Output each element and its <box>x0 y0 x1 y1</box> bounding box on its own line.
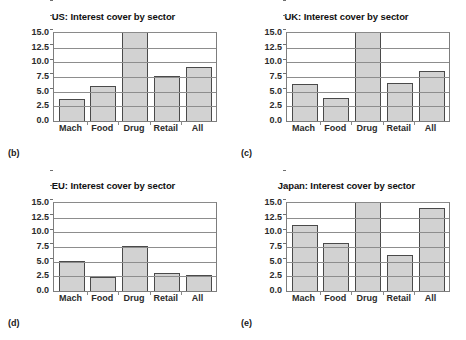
y-axis-tick-label: 5.0 <box>269 86 282 96</box>
y-axis-tick-mark <box>50 170 53 171</box>
bar <box>154 76 180 121</box>
y-axis-tick-label: 12.5 <box>31 42 49 52</box>
x-axis-tick-label: All <box>416 293 445 303</box>
y-axis-tick-mark <box>50 243 53 244</box>
y-axis-tick-mark <box>283 199 286 200</box>
y-axis-tick-mark <box>50 214 53 215</box>
y-axis-tick-mark <box>283 214 286 215</box>
panel-eu: EU: Interest cover by sector 0.02.55.07.… <box>0 170 233 340</box>
y-axis-tick-mark <box>50 258 53 259</box>
y-axis-tick-mark <box>50 185 53 186</box>
y-axis-labels: 0.02.55.07.510.012.515.0 <box>14 202 49 290</box>
gridline <box>287 106 449 107</box>
gridline <box>287 262 449 263</box>
x-axis-labels: MachFoodDrugRetailAll <box>53 123 215 133</box>
bar <box>186 67 212 121</box>
y-axis-tick-mark <box>50 15 53 16</box>
chart-title: US: Interest cover by sector <box>0 11 227 22</box>
y-axis-tick-mark <box>283 243 286 244</box>
x-axis-tick-label: All <box>183 123 212 133</box>
y-axis-tick-mark <box>283 44 286 45</box>
x-axis-labels: MachFoodDrugRetailAll <box>286 123 448 133</box>
y-axis-tick-label: 7.5 <box>269 71 282 81</box>
y-axis-tick-label: 7.5 <box>269 241 282 251</box>
y-axis-tick-mark <box>283 0 286 1</box>
y-axis-tick-mark <box>283 59 286 60</box>
y-axis-tick-mark <box>50 229 53 230</box>
bar <box>90 277 116 291</box>
x-axis-tick-label: Mach <box>56 123 85 133</box>
gridline <box>54 262 216 263</box>
x-axis-tick-label: Retail <box>384 123 413 133</box>
panel-caption: (e) <box>241 318 252 328</box>
y-axis-tick-mark <box>50 88 53 89</box>
panel-caption: (d) <box>8 318 20 328</box>
y-axis-labels: 0.02.55.07.510.012.515.0 <box>247 202 282 290</box>
bar <box>122 246 148 291</box>
x-axis-labels: MachFoodDrugRetailAll <box>53 293 215 303</box>
bar <box>292 225 318 291</box>
x-axis-tick-label: Drug <box>353 293 382 303</box>
plot-area <box>53 202 217 292</box>
gridline <box>287 276 449 277</box>
x-axis-tick-label: Food <box>321 293 350 303</box>
gridline <box>54 218 216 219</box>
y-axis-tick-label: 15.0 <box>31 197 49 207</box>
x-axis-tick-label: Mach <box>289 123 318 133</box>
panel-uk: UK: Interest cover by sector 0.02.55.07.… <box>233 0 466 170</box>
y-axis-tick-label: 7.5 <box>36 241 49 251</box>
x-axis-tick-label: Retail <box>384 293 413 303</box>
y-axis-tick-label: 12.5 <box>264 42 282 52</box>
gridline <box>287 77 449 78</box>
x-axis-tick-label: Drug <box>353 123 382 133</box>
gridline <box>54 77 216 78</box>
bar <box>323 243 349 291</box>
gridline <box>54 92 216 93</box>
y-axis-tick-label: 0.0 <box>36 115 49 125</box>
chart-title: UK: Interest cover by sector <box>233 11 460 22</box>
gridline <box>54 276 216 277</box>
gridline <box>287 62 449 63</box>
y-axis-tick-mark <box>50 29 53 30</box>
gridline <box>54 232 216 233</box>
panel-us: US: Interest cover by sector 0.02.55.07.… <box>0 0 233 170</box>
y-axis-tick-mark <box>283 185 286 186</box>
y-axis-tick-label: 2.5 <box>36 100 49 110</box>
x-axis-tick-label: Retail <box>151 293 180 303</box>
gridline <box>54 62 216 63</box>
y-axis-tick-mark <box>50 199 53 200</box>
y-axis-tick-mark <box>283 73 286 74</box>
y-axis-tick-mark <box>283 170 286 171</box>
y-axis-tick-mark <box>283 229 286 230</box>
y-axis-tick-label: 7.5 <box>36 71 49 81</box>
chart-title: EU: Interest cover by sector <box>0 180 227 191</box>
y-axis-tick-label: 0.0 <box>269 285 282 295</box>
y-axis-tick-label: 2.5 <box>269 270 282 280</box>
y-axis-tick-mark <box>283 258 286 259</box>
gridline <box>287 247 449 248</box>
gridline <box>287 218 449 219</box>
x-axis-tick-label: Drug <box>120 123 149 133</box>
gridline <box>54 106 216 107</box>
x-axis-tick-label: All <box>416 123 445 133</box>
y-axis-tick-label: 5.0 <box>36 86 49 96</box>
bar <box>387 83 413 121</box>
y-axis-tick-label: 2.5 <box>269 100 282 110</box>
bar <box>419 208 445 291</box>
x-axis-tick-label: All <box>183 293 212 303</box>
x-axis-labels: MachFoodDrugRetailAll <box>286 293 448 303</box>
y-axis-tick-mark <box>283 88 286 89</box>
bar <box>387 255 413 291</box>
gridline <box>287 48 449 49</box>
bar <box>419 71 445 121</box>
y-axis-labels: 0.02.55.07.510.012.515.0 <box>14 32 49 120</box>
y-axis-tick-label: 12.5 <box>264 212 282 222</box>
gridline <box>54 48 216 49</box>
y-axis-tick-label: 15.0 <box>264 27 282 37</box>
x-axis-tick-label: Food <box>321 123 350 133</box>
panel-japan: Japan: Interest cover by sector 0.02.55.… <box>233 170 466 340</box>
y-axis-tick-label: 10.0 <box>264 226 282 236</box>
bar <box>292 84 318 121</box>
x-axis-tick-label: Food <box>88 123 117 133</box>
x-axis-tick-label: Retail <box>151 123 180 133</box>
